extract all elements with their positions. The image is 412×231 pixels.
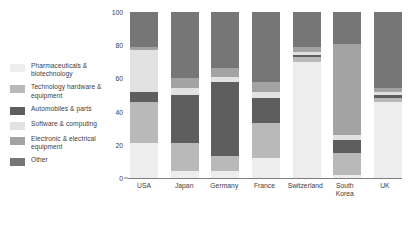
legend-swatch-icon [10, 137, 25, 145]
y-axis-tick-label: 60 [115, 75, 123, 82]
bar-segment[interactable] [252, 12, 280, 82]
bar-segment[interactable] [171, 95, 199, 143]
bar-segment[interactable] [171, 171, 199, 178]
x-axis-tick-label: Germany [207, 182, 241, 198]
stacked-bar[interactable] [252, 12, 280, 178]
legend-item-label: Electronic & electrical equipment [31, 135, 115, 151]
bar-segment[interactable] [211, 12, 239, 68]
legend-item[interactable]: Technology hardware & equipment [10, 83, 115, 99]
stacked-bar[interactable] [333, 12, 361, 178]
y-axis: 020406080100 [106, 12, 126, 178]
chart-container: Pharmaceuticals & biotechnologyTechnolog… [0, 0, 412, 231]
bar-segment[interactable] [171, 12, 199, 78]
bar-segment[interactable] [252, 123, 280, 158]
bar-segment[interactable] [333, 175, 361, 178]
bar-segment[interactable] [130, 92, 158, 102]
bar-segment[interactable] [293, 62, 321, 178]
x-axis-line [128, 178, 402, 179]
legend-swatch-icon [10, 158, 25, 166]
bar-segment[interactable] [130, 50, 158, 92]
stacked-bar[interactable] [293, 12, 321, 178]
bar-segment[interactable] [211, 171, 239, 178]
legend-item[interactable]: Pharmaceuticals & biotechnology [10, 62, 115, 78]
y-axis-tick-label: 0 [119, 175, 123, 182]
bar-segment[interactable] [252, 158, 280, 178]
bar-segment[interactable] [211, 68, 239, 76]
x-axis-tick-label: France [247, 182, 281, 198]
y-axis-tick-label: 20 [115, 141, 123, 148]
legend-item[interactable]: Other [10, 156, 115, 166]
chart-legend: Pharmaceuticals & biotechnologyTechnolog… [10, 62, 115, 171]
bar-segment[interactable] [130, 12, 158, 47]
bar-segment[interactable] [333, 140, 361, 153]
x-axis-origin-tick [124, 178, 128, 179]
bar-segment[interactable] [171, 78, 199, 88]
bar-segment[interactable] [374, 12, 402, 88]
bar-segment[interactable] [130, 143, 158, 178]
stacked-bar[interactable] [374, 12, 402, 178]
legend-item-label: Software & computing [31, 120, 97, 128]
bar-segment[interactable] [252, 82, 280, 92]
stacked-bar[interactable] [211, 12, 239, 178]
legend-item-label: Technology hardware & equipment [31, 83, 115, 99]
stacked-bar[interactable] [130, 12, 158, 178]
y-axis-tick-label: 80 [115, 42, 123, 49]
legend-item[interactable]: Automobiles & parts [10, 105, 115, 115]
x-axis-tick-label: USA [127, 182, 161, 198]
x-axis-tick-label: Japan [167, 182, 201, 198]
bar-segment[interactable] [211, 82, 239, 157]
bar-segment[interactable] [130, 102, 158, 144]
legend-item[interactable]: Electronic & electrical equipment [10, 135, 115, 151]
legend-swatch-icon [10, 122, 25, 130]
bar-segment[interactable] [252, 92, 280, 99]
stacked-bar[interactable] [171, 12, 199, 178]
bar-segment[interactable] [211, 156, 239, 171]
plot-area: 020406080100 USAJapanGermanyFranceSwitze… [106, 12, 402, 190]
legend-item-label: Pharmaceuticals & biotechnology [31, 62, 115, 78]
x-axis-tick-label: South Korea [328, 182, 362, 198]
y-axis-tick-label: 40 [115, 108, 123, 115]
legend-swatch-icon [10, 64, 25, 72]
bar-segment[interactable] [374, 102, 402, 178]
legend-item-label: Other [31, 156, 48, 164]
bar-segment[interactable] [252, 98, 280, 123]
x-axis-labels: USAJapanGermanyFranceSwitzerlandSouth Ko… [130, 182, 402, 198]
y-axis-tick-label: 100 [112, 9, 123, 16]
legend-item-label: Automobiles & parts [31, 105, 92, 113]
legend-swatch-icon [10, 85, 25, 93]
bar-group [130, 12, 402, 178]
bar-segment[interactable] [171, 143, 199, 171]
bar-segment[interactable] [333, 44, 361, 135]
bar-segment[interactable] [293, 12, 321, 47]
legend-swatch-icon [10, 107, 25, 115]
bar-segment[interactable] [333, 153, 361, 175]
x-axis-tick-label: UK [368, 182, 402, 198]
bar-segment[interactable] [333, 12, 361, 44]
bar-segment[interactable] [171, 88, 199, 95]
x-axis-tick-label: Switzerland [288, 182, 322, 198]
legend-item[interactable]: Software & computing [10, 120, 115, 130]
